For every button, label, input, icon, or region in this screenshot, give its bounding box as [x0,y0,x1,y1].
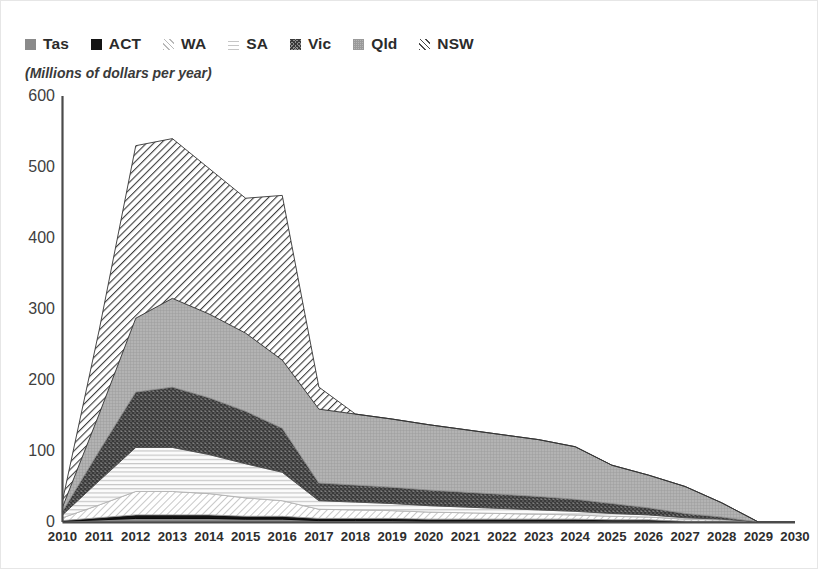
x-tick-label-2029: 2029 [744,529,773,544]
x-tick-label-2011: 2011 [85,529,114,544]
x-tick-label-2017: 2017 [304,529,333,544]
chart-plot-area: 0100200300400500600 20102011201220132014… [1,1,818,569]
y-tick-label-300: 300 [9,300,55,318]
x-tick-label-2021: 2021 [451,529,480,544]
x-tick-label-2019: 2019 [377,529,406,544]
stacked-area-svg [1,1,818,569]
x-tick-label-2022: 2022 [487,529,516,544]
x-tick-label-2016: 2016 [268,529,297,544]
x-tick-label-2028: 2028 [707,529,736,544]
x-tick-label-2023: 2023 [524,529,553,544]
x-tick-label-2026: 2026 [634,529,663,544]
x-tick-label-2018: 2018 [341,529,370,544]
x-tick-label-2013: 2013 [158,529,187,544]
x-tick-label-2012: 2012 [121,529,150,544]
y-tick-label-100: 100 [9,442,55,460]
x-tick-label-2025: 2025 [597,529,626,544]
x-tick-label-2014: 2014 [194,529,223,544]
chart-frame: Tas ACT WA SA Vic Qld NSW (Millions of d… [0,0,818,569]
y-tick-label-200: 200 [9,371,55,389]
y-tick-label-500: 500 [9,158,55,176]
x-tick-label-2010: 2010 [48,529,77,544]
y-tick-label-400: 400 [9,229,55,247]
y-tick-label-600: 600 [9,87,55,105]
x-tick-label-2024: 2024 [561,529,590,544]
x-tick-label-2027: 2027 [670,529,699,544]
area-series-group [63,139,796,522]
x-tick-label-2020: 2020 [414,529,443,544]
x-tick-label-2015: 2015 [231,529,260,544]
x-tick-label-2030: 2030 [780,529,809,544]
